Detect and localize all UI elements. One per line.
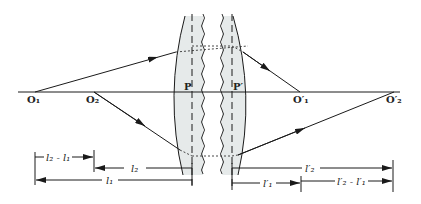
label-l2-minus-l1: l₂ - l₁ <box>46 152 70 163</box>
label-principal-back: P′ <box>233 81 244 92</box>
ray-1-incident <box>35 52 176 92</box>
label-l2p-minus-l1p: l′₂ - l′₁ <box>337 176 366 187</box>
ray-1-refracted-arrow <box>243 52 270 71</box>
label-object-1: O₁ <box>27 94 40 105</box>
ray-2-incident-arrow <box>94 92 145 126</box>
label-image-1: O′₁ <box>293 94 309 105</box>
thick-lens-diagram: O₁ O₂ O′₁ O′₂ P P′ l₂ - l₁ l₂ l₁ l′₂ l′₁… <box>0 0 421 204</box>
label-l2-prime: l′₂ <box>305 163 314 174</box>
label-object-2: O₂ <box>86 94 99 105</box>
label-l1-prime: l′₁ <box>263 178 272 189</box>
label-l1: l₁ <box>106 175 113 186</box>
ray-2-refracted-arrow <box>238 128 305 155</box>
label-principal-front: P <box>184 81 192 92</box>
label-l2: l₂ <box>131 163 138 174</box>
label-image-2: O′₂ <box>386 94 402 105</box>
